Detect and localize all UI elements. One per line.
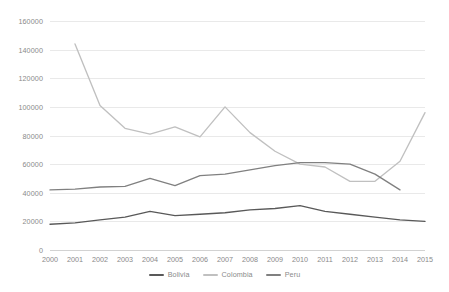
legend-label: Peru xyxy=(285,270,301,279)
x-axis-tick-label: 2002 xyxy=(92,255,108,264)
gridline xyxy=(50,78,425,79)
gridline xyxy=(50,107,425,108)
legend-swatch-icon xyxy=(149,274,164,276)
legend-item-colombia[interactable]: Colombia xyxy=(203,270,253,279)
x-axis-tick-label: 2010 xyxy=(292,255,308,264)
x-axis-tick-label: 2015 xyxy=(417,255,433,264)
y-axis-tick-label: 120000 xyxy=(0,74,43,83)
x-axis-tick-label: 2000 xyxy=(42,255,58,264)
y-axis-tick-label: 100000 xyxy=(0,103,43,112)
y-axis-tick-label: 40000 xyxy=(0,189,43,198)
gridline xyxy=(50,21,425,22)
gridline xyxy=(50,50,425,51)
x-axis-line xyxy=(50,250,425,251)
y-axis-tick-label: 80000 xyxy=(0,132,43,141)
legend-item-peru[interactable]: Peru xyxy=(266,270,301,279)
y-axis-tick-label: 140000 xyxy=(0,46,43,55)
x-axis-tick-label: 2011 xyxy=(317,255,332,264)
x-axis-tick-label: 2014 xyxy=(392,255,408,264)
legend-label: Colombia xyxy=(222,270,253,279)
gridline xyxy=(50,136,425,137)
line-chart: 0200004000060000800001000001200001400001… xyxy=(0,0,449,292)
legend-swatch-icon xyxy=(266,274,281,276)
y-axis-tick-label: 60000 xyxy=(0,160,43,169)
y-axis-tick-label: 0 xyxy=(0,246,43,255)
legend-label: Bolivia xyxy=(168,270,190,279)
gridline xyxy=(50,193,425,194)
gridline xyxy=(50,221,425,222)
gridline xyxy=(50,164,425,165)
x-axis-tick-label: 2006 xyxy=(192,255,208,264)
legend-swatch-icon xyxy=(203,274,218,276)
x-axis-tick-label: 2001 xyxy=(67,255,83,264)
x-axis-tick-label: 2003 xyxy=(117,255,133,264)
legend-item-bolivia[interactable]: Bolivia xyxy=(149,270,190,279)
x-axis-tick-label: 2008 xyxy=(242,255,258,264)
x-axis-tick-label: 2012 xyxy=(342,255,358,264)
x-axis-tick-label: 2013 xyxy=(367,255,383,264)
x-axis-tick-label: 2007 xyxy=(217,255,233,264)
y-axis-tick-label: 20000 xyxy=(0,217,43,226)
x-axis-tick-label: 2009 xyxy=(267,255,283,264)
plot-area xyxy=(50,21,425,250)
chart-legend: BoliviaColombiaPeru xyxy=(0,270,449,279)
x-axis-tick-label: 2004 xyxy=(142,255,158,264)
y-axis-tick-label: 160000 xyxy=(0,17,43,26)
x-axis-tick-label: 2005 xyxy=(167,255,183,264)
